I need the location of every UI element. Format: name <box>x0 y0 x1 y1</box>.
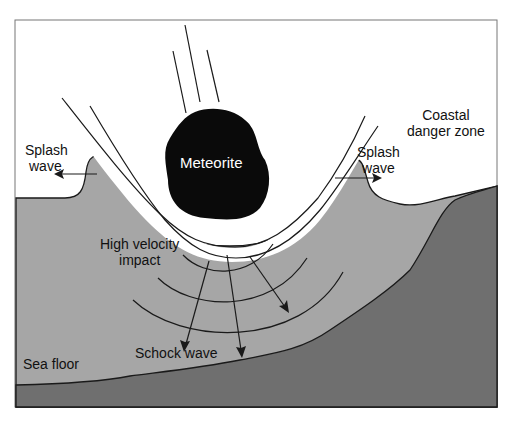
label-meteorite: Meteorite <box>180 155 243 171</box>
label-splash-wave-right: Splash wave <box>357 144 400 176</box>
label-shock-wave: Schock wave <box>135 345 217 361</box>
label-splash-wave-left: Splash wave <box>25 142 68 174</box>
label-coastal-danger-zone: Coastal danger zone <box>407 107 485 139</box>
label-impact-line2: impact <box>100 252 179 268</box>
label-impact-line1: High velocity <box>100 236 179 252</box>
label-splash-right-line2: wave <box>357 160 400 176</box>
label-coastal-line1: Coastal <box>407 107 485 123</box>
label-sea-floor: Sea floor <box>23 356 79 372</box>
label-splash-left-line1: Splash <box>25 142 68 158</box>
label-splash-left-line2: wave <box>25 158 68 174</box>
label-high-velocity-impact: High velocity impact <box>100 236 179 268</box>
label-coastal-line2: danger zone <box>407 123 485 139</box>
label-splash-right-line1: Splash <box>357 144 400 160</box>
